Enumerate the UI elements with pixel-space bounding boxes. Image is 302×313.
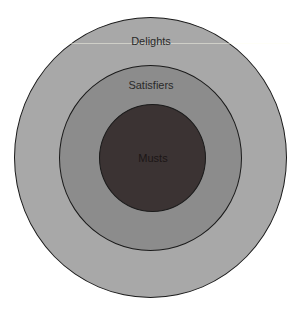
label-musts: Musts (2, 152, 302, 164)
concentric-diagram: Delights Satisfiers Musts (0, 0, 302, 313)
label-delights: Delights (0, 35, 302, 47)
label-satisfiers: Satisfiers (0, 79, 302, 91)
